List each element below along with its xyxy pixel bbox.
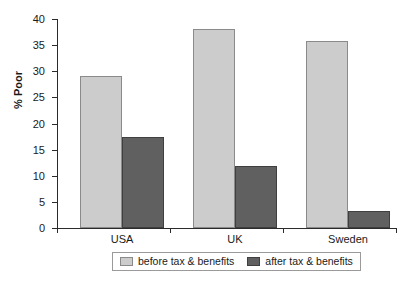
- y-tick: [52, 97, 57, 98]
- x-tick-label-sweden: Sweden: [303, 234, 393, 245]
- y-tick: [52, 202, 57, 203]
- legend: before tax & benefits after tax & benefi…: [112, 252, 361, 271]
- bar-after-usa: [122, 137, 164, 228]
- y-tick-label: 0: [5, 223, 45, 234]
- y-axis-line: [57, 19, 58, 228]
- y-tick-label: 30: [5, 66, 45, 77]
- y-tick: [52, 176, 57, 177]
- y-tick-label: 15: [5, 145, 45, 156]
- legend-label-before: before tax & benefits: [138, 256, 234, 267]
- x-tick: [170, 228, 171, 233]
- x-axis-line: [57, 228, 397, 229]
- y-tick: [52, 19, 57, 20]
- y-tick-label: 20: [5, 119, 45, 130]
- x-tick: [283, 228, 284, 233]
- x-tick-label-uk: UK: [190, 234, 280, 245]
- bar-after-sweden: [348, 211, 390, 228]
- bar-after-uk: [235, 166, 277, 228]
- x-tick-label-usa: USA: [77, 234, 167, 245]
- y-tick-label: 35: [5, 40, 45, 51]
- y-tick-label: 25: [5, 92, 45, 103]
- bar-before-usa: [80, 76, 122, 228]
- y-tick-label: 10: [5, 171, 45, 182]
- legend-swatch-before-icon: [120, 257, 133, 266]
- x-tick: [396, 228, 397, 233]
- bar-chart: % Poor 0 5 10 15 20 25 30 35 40 USA: [0, 0, 408, 286]
- y-tick: [52, 71, 57, 72]
- y-tick-label: 40: [5, 14, 45, 25]
- y-tick-label: 5: [5, 197, 45, 208]
- legend-label-after: after tax & benefits: [265, 256, 353, 267]
- bar-before-uk: [193, 29, 235, 228]
- legend-swatch-after-icon: [247, 257, 260, 266]
- y-tick: [52, 45, 57, 46]
- y-tick: [52, 150, 57, 151]
- y-tick: [52, 124, 57, 125]
- x-tick: [57, 228, 58, 233]
- plot-area: 0 5 10 15 20 25 30 35 40 USA UK Sweden: [57, 19, 397, 228]
- legend-entry-after: after tax & benefits: [247, 256, 353, 267]
- bar-before-sweden: [306, 41, 348, 228]
- legend-entry-before: before tax & benefits: [120, 256, 234, 267]
